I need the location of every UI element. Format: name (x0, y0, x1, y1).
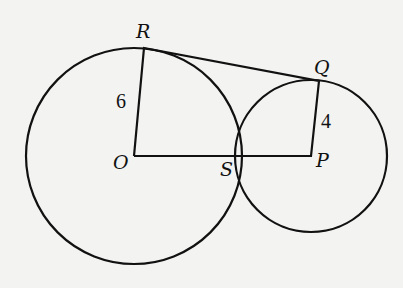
label-radius-PQ: 4 (321, 110, 331, 132)
label-radius-OR: 6 (116, 90, 126, 112)
label-O: O (113, 151, 129, 173)
label-R: R (135, 20, 150, 42)
label-S: S (220, 158, 233, 180)
label-Q: Q (314, 56, 330, 78)
label-P: P (315, 149, 330, 171)
geometry-diagram: R Q O S P 6 4 (0, 0, 403, 288)
